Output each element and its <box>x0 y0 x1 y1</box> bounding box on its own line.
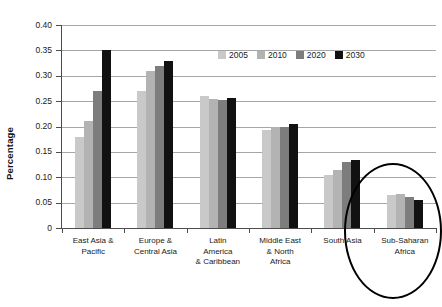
x-category-label: Sub-SaharanAfrica <box>374 236 436 257</box>
bar <box>164 61 173 228</box>
y-tick-label: 0.35 <box>18 46 52 55</box>
y-tick-label: 0.15 <box>18 147 52 156</box>
bar-group <box>374 25 436 228</box>
x-category-label-line: America <box>187 247 249 258</box>
bar <box>333 170 342 228</box>
x-category-label-line: Central Asia <box>124 247 186 258</box>
y-tick-label: 0.10 <box>18 173 52 182</box>
bar <box>227 98 236 228</box>
x-category-label: Middle East& NorthAfrica <box>249 236 311 268</box>
bar-group <box>124 25 186 228</box>
bar <box>218 100 227 228</box>
x-category-label-line: Africa <box>374 247 436 258</box>
legend-item[interactable]: 2030 <box>335 51 365 60</box>
bar-group-bars <box>62 25 124 228</box>
x-tick-mark <box>187 228 188 233</box>
bar-group-bars <box>374 25 436 228</box>
x-category-label-line: Pacific <box>62 247 124 258</box>
bar <box>155 66 164 228</box>
bar <box>102 50 111 228</box>
legend-item[interactable]: 2010 <box>257 51 287 60</box>
bar <box>324 175 333 228</box>
x-category-label-line: Latin <box>187 236 249 247</box>
x-category-label: East Asia &Pacific <box>62 236 124 257</box>
x-tick-mark <box>249 228 250 233</box>
chart-legend: 2005201020202030 <box>218 51 365 60</box>
legend-swatch-icon <box>257 51 265 59</box>
bar <box>271 127 280 229</box>
legend-label: 2010 <box>268 51 287 60</box>
x-category-label: South Asia <box>311 236 373 247</box>
bar <box>209 99 218 228</box>
legend-item[interactable]: 2005 <box>218 51 248 60</box>
x-category-label-line: Middle East <box>249 236 311 247</box>
y-tick-label: 0 <box>18 224 52 233</box>
x-category-label-line: & North <box>249 247 311 258</box>
x-tick-mark <box>311 228 312 233</box>
x-category-label-line: Sub-Saharan <box>374 236 436 247</box>
y-tick-label: 0.30 <box>18 71 52 80</box>
bar <box>137 91 146 228</box>
bar <box>262 130 271 228</box>
y-tick-label: 0.20 <box>18 122 52 131</box>
x-category-label-line: & Caribbean <box>187 257 249 268</box>
bar <box>289 124 298 228</box>
y-axis-title-label: Percentage <box>5 127 16 180</box>
bar <box>342 162 351 228</box>
legend-label: 2030 <box>346 51 365 60</box>
x-category-label-line: East Asia & <box>62 236 124 247</box>
x-category-label-line: Europe & <box>124 236 186 247</box>
bar <box>405 197 414 228</box>
bar-group <box>62 25 124 228</box>
x-tick-mark <box>374 228 375 233</box>
legend-item[interactable]: 2020 <box>296 51 326 60</box>
x-category-label: LatinAmerica& Caribbean <box>187 236 249 268</box>
legend-label: 2020 <box>307 51 326 60</box>
y-axis-title: Percentage <box>0 0 20 307</box>
x-category-label-line: South Asia <box>311 236 373 247</box>
bar <box>387 195 396 228</box>
x-tick-mark <box>436 228 437 233</box>
legend-swatch-icon <box>218 51 226 59</box>
bar <box>351 160 360 229</box>
bar <box>414 200 423 228</box>
bar <box>75 137 84 228</box>
bar <box>200 96 209 228</box>
legend-label: 2005 <box>229 51 248 60</box>
bar-group-bars <box>124 25 186 228</box>
x-tick-mark <box>62 228 63 233</box>
x-category-label: Europe &Central Asia <box>124 236 186 257</box>
bar <box>84 121 93 228</box>
bar <box>396 194 405 229</box>
bar <box>93 91 102 228</box>
y-tick-label: 0.25 <box>18 97 52 106</box>
bar <box>146 71 155 228</box>
x-category-label-line: Africa <box>249 257 311 268</box>
y-tick-label: 0.40 <box>18 21 52 30</box>
legend-swatch-icon <box>296 51 304 59</box>
legend-swatch-icon <box>335 51 343 59</box>
bar <box>280 127 289 229</box>
x-tick-mark <box>124 228 125 233</box>
y-tick-label: 0.05 <box>18 198 52 207</box>
